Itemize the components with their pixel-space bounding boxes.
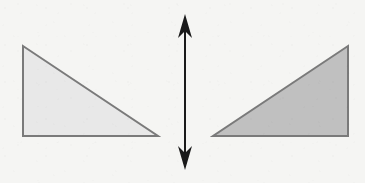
diagram-svg (0, 0, 365, 183)
diagram-canvas (0, 0, 365, 183)
